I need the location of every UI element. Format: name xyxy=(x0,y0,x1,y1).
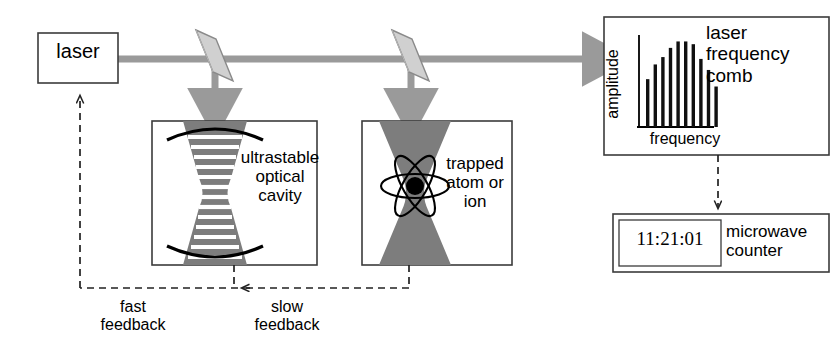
atom-beam-graphic xyxy=(379,121,451,265)
laser-box[interactable] xyxy=(38,33,118,83)
optical-clock-diagram: laser ultrastable optical cavity trapped… xyxy=(0,0,839,348)
diagram-canvas xyxy=(0,0,839,348)
comb-bar xyxy=(692,44,695,127)
comb-bar xyxy=(707,70,710,127)
comb-bar xyxy=(661,57,664,127)
laser-beam-path xyxy=(118,59,604,110)
comb-bar xyxy=(684,41,687,127)
atom-nucleus xyxy=(406,177,424,195)
comb-box[interactable] xyxy=(604,17,829,155)
comb-bar xyxy=(676,41,679,127)
comb-bar xyxy=(699,59,702,127)
comb-bar xyxy=(654,64,657,127)
comb-bar xyxy=(669,48,672,127)
comb-bar xyxy=(714,87,717,127)
counter-readout-value: 11:21:01 xyxy=(622,228,718,250)
comb-bar xyxy=(646,79,649,127)
